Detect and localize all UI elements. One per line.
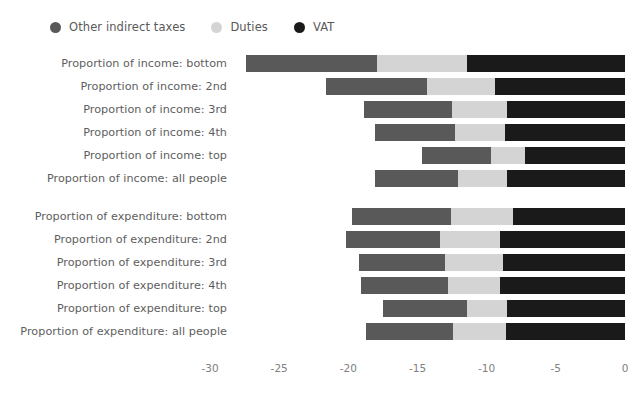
bar-segment-vat[interactable]: [513, 208, 625, 225]
bar-segment-duties[interactable]: [440, 231, 501, 248]
chart-row: Proportion of income: bottom: [0, 55, 643, 72]
bar-segment-duties[interactable]: [427, 78, 495, 95]
bar-segment-vat[interactable]: [507, 170, 625, 187]
x-tick-label: -5: [551, 362, 561, 374]
bar-segment-other-indirect-taxes[interactable]: [375, 170, 458, 187]
bar-segment-other-indirect-taxes[interactable]: [383, 300, 467, 317]
bar-segment-vat[interactable]: [505, 124, 625, 141]
stacked-bar[interactable]: [361, 277, 625, 294]
category-label: Proportion of income: 4th: [0, 124, 227, 141]
bar-segment-vat[interactable]: [525, 147, 625, 164]
x-tick-label: -10: [478, 362, 495, 374]
bar-segment-vat[interactable]: [467, 55, 625, 72]
chart-row: Proportion of expenditure: 4th: [0, 277, 643, 294]
stacked-bar[interactable]: [375, 124, 625, 141]
chart-row: Proportion of income: all people: [0, 170, 643, 187]
bar-segment-duties[interactable]: [445, 254, 503, 271]
stacked-bar[interactable]: [422, 147, 625, 164]
category-label: Proportion of income: all people: [0, 170, 227, 187]
stacked-bar[interactable]: [366, 323, 625, 340]
category-label: Proportion of expenditure: all people: [0, 323, 227, 340]
bar-segment-vat[interactable]: [500, 277, 624, 294]
category-label: Proportion of income: bottom: [0, 55, 227, 72]
bar-segment-duties[interactable]: [458, 170, 508, 187]
legend-label-duties: Duties: [230, 20, 268, 34]
bar-segment-other-indirect-taxes[interactable]: [364, 101, 453, 118]
bar-segment-vat[interactable]: [503, 254, 625, 271]
chart-row: Proportion of expenditure: bottom: [0, 208, 643, 225]
legend-swatch-vat: [294, 22, 305, 33]
stacked-bar-chart: Other indirect taxes Duties VAT Proporti…: [0, 0, 643, 393]
stacked-bar[interactable]: [352, 208, 625, 225]
legend-item-duties[interactable]: Duties: [211, 20, 268, 34]
bar-segment-vat[interactable]: [507, 101, 625, 118]
legend-label-vat: VAT: [313, 20, 334, 34]
legend-swatch-other-indirect-taxes: [50, 22, 61, 33]
bar-segment-other-indirect-taxes[interactable]: [352, 208, 450, 225]
bar-segment-duties[interactable]: [453, 323, 506, 340]
chart-row: Proportion of income: 3rd: [0, 101, 643, 118]
bar-segment-other-indirect-taxes[interactable]: [361, 277, 448, 294]
bar-segment-duties[interactable]: [455, 124, 505, 141]
bar-segment-vat[interactable]: [506, 323, 625, 340]
category-label: Proportion of income: 2nd: [0, 78, 227, 95]
legend-swatch-duties: [211, 22, 222, 33]
bar-segment-other-indirect-taxes[interactable]: [366, 323, 453, 340]
bar-segment-other-indirect-taxes[interactable]: [359, 254, 445, 271]
bar-segment-vat[interactable]: [500, 231, 624, 248]
category-label: Proportion of expenditure: top: [0, 300, 227, 317]
x-tick-label: -25: [271, 362, 288, 374]
chart-row: Proportion of income: top: [0, 147, 643, 164]
bar-segment-other-indirect-taxes[interactable]: [246, 55, 377, 72]
bar-segment-duties[interactable]: [448, 277, 501, 294]
chart-legend: Other indirect taxes Duties VAT: [0, 16, 643, 38]
stacked-bar[interactable]: [375, 170, 625, 187]
bar-segment-duties[interactable]: [451, 208, 513, 225]
legend-label-other-indirect-taxes: Other indirect taxes: [69, 20, 185, 34]
stacked-bar[interactable]: [359, 254, 625, 271]
category-label: Proportion of expenditure: bottom: [0, 208, 227, 225]
bar-segment-other-indirect-taxes[interactable]: [326, 78, 427, 95]
stacked-bar[interactable]: [346, 231, 625, 248]
x-tick-label: -30: [201, 362, 218, 374]
bar-segment-other-indirect-taxes[interactable]: [422, 147, 491, 164]
category-label: Proportion of income: top: [0, 147, 227, 164]
legend-item-vat[interactable]: VAT: [294, 20, 334, 34]
chart-row: Proportion of expenditure: 2nd: [0, 231, 643, 248]
category-label: Proportion of expenditure: 4th: [0, 277, 227, 294]
bar-segment-vat[interactable]: [495, 78, 625, 95]
x-tick-label: 0: [622, 362, 629, 374]
bar-segment-other-indirect-taxes[interactable]: [375, 124, 455, 141]
x-tick-label: -15: [409, 362, 426, 374]
stacked-bar[interactable]: [364, 101, 625, 118]
chart-row: Proportion of expenditure: 3rd: [0, 254, 643, 271]
bar-segment-duties[interactable]: [491, 147, 526, 164]
bar-segment-duties[interactable]: [377, 55, 467, 72]
category-label: Proportion of expenditure: 3rd: [0, 254, 227, 271]
x-tick-label: -20: [340, 362, 357, 374]
stacked-bar[interactable]: [246, 55, 625, 72]
bar-segment-vat[interactable]: [507, 300, 625, 317]
chart-row: Proportion of expenditure: all people: [0, 323, 643, 340]
bar-segment-duties[interactable]: [452, 101, 507, 118]
stacked-bar[interactable]: [383, 300, 625, 317]
category-label: Proportion of income: 3rd: [0, 101, 227, 118]
x-axis: -30-25-20-15-10-50: [0, 362, 643, 380]
plot-area: Proportion of income: bottomProportion o…: [0, 55, 643, 360]
chart-row: Proportion of income: 4th: [0, 124, 643, 141]
bar-segment-duties[interactable]: [467, 300, 507, 317]
stacked-bar[interactable]: [326, 78, 625, 95]
category-label: Proportion of expenditure: 2nd: [0, 231, 227, 248]
chart-row: Proportion of expenditure: top: [0, 300, 643, 317]
legend-item-other-indirect-taxes[interactable]: Other indirect taxes: [50, 20, 185, 34]
chart-row: Proportion of income: 2nd: [0, 78, 643, 95]
bar-segment-other-indirect-taxes[interactable]: [346, 231, 440, 248]
